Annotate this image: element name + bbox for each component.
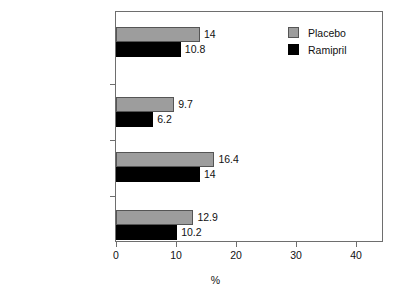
bar-value-label: 9.7 bbox=[178, 97, 193, 112]
bar-value-label: 14 bbox=[204, 27, 216, 42]
x-axis-title-text: % bbox=[211, 274, 220, 286]
bar-value-label: 10.2 bbox=[181, 225, 201, 240]
y-axis-tick bbox=[110, 140, 115, 141]
x-axis-tick-label: 0 bbox=[113, 249, 119, 261]
bar-ramipril bbox=[116, 42, 181, 57]
y-axis-tick bbox=[110, 196, 115, 197]
bar-chart: Total mortality1410.8CV mortality9.76.2C… bbox=[0, 0, 401, 302]
bar-value-label: 10.8 bbox=[185, 42, 205, 57]
x-axis-tick-label: 20 bbox=[230, 249, 242, 261]
legend-item-placebo: Placebo bbox=[288, 24, 347, 41]
bar-ramipril bbox=[116, 167, 200, 182]
x-axis-tick-label: 10 bbox=[170, 249, 182, 261]
bar-ramipril bbox=[116, 225, 177, 240]
x-axis-tick-label: 30 bbox=[290, 249, 302, 261]
gray-square-swatch-icon bbox=[288, 27, 299, 38]
chart-legend: Placebo Ramipril bbox=[288, 24, 347, 58]
legend-label-placebo: Placebo bbox=[308, 27, 346, 39]
bar-placebo bbox=[116, 97, 174, 112]
x-axis-tick-label: 40 bbox=[350, 249, 362, 261]
y-axis-tick bbox=[110, 84, 115, 85]
x-axis-tick bbox=[296, 242, 297, 247]
x-axis-title: % bbox=[0, 274, 401, 286]
bar-ramipril bbox=[116, 112, 153, 127]
bar-value-label: 16.4 bbox=[218, 152, 238, 167]
x-axis-tick bbox=[176, 242, 177, 247]
x-axis-tick bbox=[236, 242, 237, 247]
bar-placebo bbox=[116, 27, 200, 42]
bar-placebo bbox=[116, 210, 193, 225]
black-square-swatch-icon bbox=[288, 44, 299, 55]
bar-value-label: 14 bbox=[204, 167, 216, 182]
bar-placebo bbox=[116, 152, 214, 167]
x-axis-tick bbox=[116, 242, 117, 247]
x-axis-tick bbox=[356, 242, 357, 247]
legend-label-ramipril: Ramipril bbox=[308, 44, 347, 56]
legend-item-ramipril: Ramipril bbox=[288, 41, 347, 58]
bar-value-label: 12.9 bbox=[197, 210, 217, 225]
bar-value-label: 6.2 bbox=[157, 112, 172, 127]
